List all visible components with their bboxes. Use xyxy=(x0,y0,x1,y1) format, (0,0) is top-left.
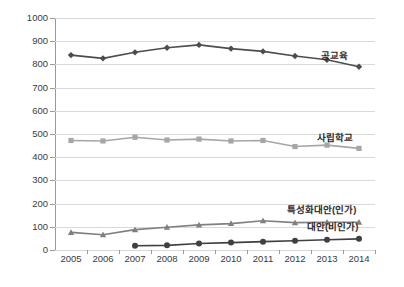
data-point-square xyxy=(100,138,105,143)
data-point-diamond xyxy=(292,53,298,59)
data-point-square xyxy=(324,143,329,148)
data-point-diamond xyxy=(68,52,74,58)
data-point-circle xyxy=(164,242,170,248)
data-point-square xyxy=(260,138,265,143)
data-point-diamond xyxy=(100,55,106,61)
series-label-private-school: 사립학교 xyxy=(317,133,353,143)
data-point-diamond xyxy=(260,48,266,54)
data-point-diamond xyxy=(132,49,138,55)
data-point-circle xyxy=(324,237,330,243)
data-point-diamond xyxy=(228,45,234,51)
data-point-square xyxy=(68,138,73,143)
data-point-square xyxy=(196,137,201,142)
data-point-square xyxy=(164,137,169,142)
series-line-0 xyxy=(71,45,359,67)
data-point-diamond xyxy=(196,42,202,48)
data-point-square xyxy=(292,144,297,149)
line-chart: 10009008007006005004003002001000 2005200… xyxy=(0,0,404,287)
data-point-circle xyxy=(356,236,362,242)
series-layer xyxy=(0,0,404,287)
series-line-1 xyxy=(71,137,359,148)
data-point-circle xyxy=(260,239,266,245)
data-point-circle xyxy=(228,240,234,246)
series-label-alternative-unauthorized: 대안(비인가) xyxy=(307,222,358,232)
data-point-square xyxy=(132,135,137,140)
data-point-circle xyxy=(196,241,202,247)
data-point-square xyxy=(356,146,361,151)
data-point-diamond xyxy=(164,44,170,50)
series-label-specialized-alternative: 특성화대안(인가) xyxy=(287,205,356,215)
data-point-square xyxy=(228,138,233,143)
data-point-circle xyxy=(132,243,138,249)
data-point-diamond xyxy=(356,64,362,70)
series-label-public-education: 공교육 xyxy=(321,51,348,61)
data-point-circle xyxy=(292,238,298,244)
